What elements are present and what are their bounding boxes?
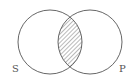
label-s: S — [12, 64, 19, 74]
venn-diagram — [0, 0, 131, 78]
label-p: P — [119, 64, 126, 74]
